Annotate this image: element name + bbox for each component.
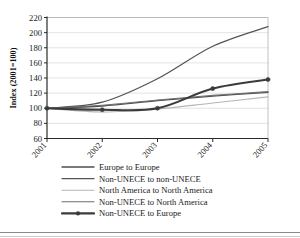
series-marker-4-1 xyxy=(100,108,104,112)
series-marker-4-0 xyxy=(45,106,49,110)
x-tick-label-2003: 2003 xyxy=(140,140,159,159)
series-marker-4-2 xyxy=(155,106,159,110)
series-marker-4-4 xyxy=(266,77,270,81)
y-tick-label-140: 140 xyxy=(29,73,42,83)
legend-label-4: Non-UNECE to Europe xyxy=(99,208,181,218)
y-tick-label-220: 220 xyxy=(29,13,42,23)
legend-marker-4 xyxy=(76,211,80,215)
legend-label-2: North America to North America xyxy=(99,185,213,195)
x-tick-label-2004: 2004 xyxy=(195,140,214,160)
y-tick-label-80: 80 xyxy=(33,118,42,128)
y-tick-label-200: 200 xyxy=(29,28,42,38)
x-tick-label-2001: 2001 xyxy=(30,140,49,159)
legend-label-3: Non-UNECE to North America xyxy=(99,197,208,207)
y-axis-title: Index (2001=100) xyxy=(9,47,18,108)
chart-canvas: 6080100120140160180200220200120022003200… xyxy=(0,0,300,238)
y-tick-label-160: 160 xyxy=(29,58,42,68)
series-marker-4-3 xyxy=(211,86,215,90)
x-tick-label-2005: 2005 xyxy=(251,140,270,159)
y-tick-label-180: 180 xyxy=(29,43,42,53)
legend-label-0: Europe to Europe xyxy=(99,162,160,172)
y-tick-label-100: 100 xyxy=(29,103,42,113)
legend-label-1: Non-UNECE to non-UNECE xyxy=(99,174,201,184)
footer-divider xyxy=(0,232,300,233)
x-tick-label-2002: 2002 xyxy=(85,140,104,159)
line-chart: 6080100120140160180200220200120022003200… xyxy=(0,0,300,238)
y-tick-label-120: 120 xyxy=(29,88,42,98)
footer-divider-secondary xyxy=(0,236,300,237)
